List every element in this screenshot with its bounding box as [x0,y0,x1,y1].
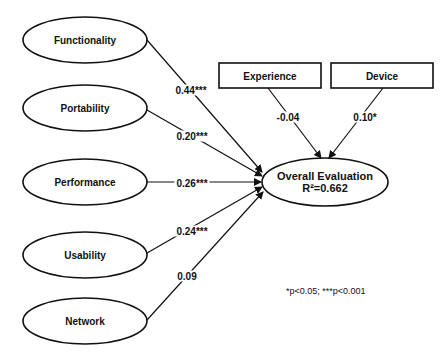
coef-performance: 0.26*** [174,178,209,189]
outcome-r-squared: R²=0.662 [277,182,373,194]
label-network: Network [65,316,104,327]
path-network [147,192,263,320]
coef-experience: -0.04 [275,112,302,123]
coef-functionality: 0.44*** [173,85,208,96]
label-portability: Portability [61,103,110,114]
coef-device: 0.10* [351,112,378,123]
path-portability [147,110,262,176]
path-device [329,88,383,158]
outcome-label-group: Overall Evaluation R²=0.662 [277,170,373,194]
coef-usability: 0.24*** [174,226,209,237]
path-experience [268,88,321,158]
label-usability: Usability [64,250,106,261]
path-usability [147,187,262,253]
path-functionality [147,40,262,172]
significance-note: *p<0.05; ***p<0.001 [286,286,366,296]
label-performance: Performance [54,177,115,188]
label-functionality: Functionality [54,35,116,46]
outcome-title: Overall Evaluation [277,170,373,182]
coef-network: 0.09 [175,271,198,282]
coef-portability: 0.20*** [174,131,209,142]
label-experience: Experience [243,71,296,82]
label-device: Device [366,71,398,82]
